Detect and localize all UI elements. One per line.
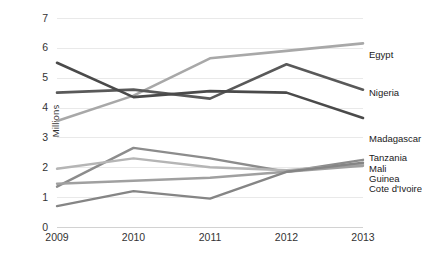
series-label-cote-d-ivoire: Cote d'Ivoire bbox=[369, 184, 422, 194]
series-line bbox=[57, 64, 363, 98]
y-tick-label: 4 bbox=[18, 102, 48, 113]
x-tick-label: 2013 bbox=[332, 232, 394, 243]
y-tick-label: 2 bbox=[18, 162, 48, 173]
x-tick-label: 2011 bbox=[179, 232, 241, 243]
series-line bbox=[57, 163, 363, 206]
x-tick-label: 2012 bbox=[256, 232, 318, 243]
y-tick-label: 6 bbox=[18, 42, 48, 53]
y-tick-label: 7 bbox=[18, 13, 48, 24]
y-tick-label: 1 bbox=[18, 192, 48, 203]
x-axis-line bbox=[57, 227, 363, 228]
y-tick-label: 0 bbox=[18, 222, 48, 233]
x-tick-label: 2010 bbox=[103, 232, 165, 243]
x-tick-label: 2009 bbox=[26, 232, 88, 243]
series-label-mali: Mali bbox=[369, 164, 386, 174]
plot-area: Millions 01234567 20092010201120122013 E… bbox=[57, 18, 363, 227]
series-label-tanzania: Tanzania bbox=[369, 153, 407, 163]
series-label-egypt: Egypt bbox=[369, 50, 393, 60]
series-label-madagascar: Madagascar bbox=[369, 134, 421, 144]
series-lines bbox=[57, 18, 363, 227]
line-chart: Millions 01234567 20092010201120122013 E… bbox=[0, 0, 422, 267]
y-tick-label: 5 bbox=[18, 72, 48, 83]
series-label-guinea: Guinea bbox=[369, 174, 400, 184]
series-label-nigeria: Nigeria bbox=[369, 88, 399, 98]
y-tick-label: 3 bbox=[18, 132, 48, 143]
